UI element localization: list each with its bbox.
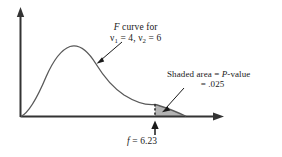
x-axis-arrowhead <box>213 113 224 121</box>
critical-value-text: = 6.23 <box>130 136 157 146</box>
shaded-area-label: Shaded area = P-value = .025 <box>167 69 250 89</box>
tail-label-prefix: Shaded area = <box>167 69 222 79</box>
f-distribution-figure: F curve for ν1 = 4, ν2 = 6 Shaded area =… <box>0 0 282 157</box>
curve-label-leader-line <box>101 42 122 60</box>
curve-label-line1: F curve for <box>114 22 158 32</box>
critical-value-pointer-arrowhead <box>151 121 158 130</box>
tail-label-leader-line <box>166 88 184 108</box>
f-density-curve <box>21 46 186 117</box>
curve-label-line1-text: curve for <box>120 22 158 32</box>
nu2-value: = 6 <box>146 33 161 43</box>
curve-label: F curve for ν1 = 4, ν2 = 6 <box>110 22 161 44</box>
nu1-value: = 4, <box>118 33 136 43</box>
tail-label-line1: Shaded area = P-value <box>167 69 250 79</box>
curve-label-line2: ν1 = 4, ν2 = 6 <box>110 33 161 44</box>
tail-label-line2: = .025 <box>167 79 250 89</box>
critical-value-label: f = 6.23 <box>127 136 157 147</box>
tail-label-suffix: -value <box>227 69 250 79</box>
y-axis-arrowhead <box>17 7 24 17</box>
